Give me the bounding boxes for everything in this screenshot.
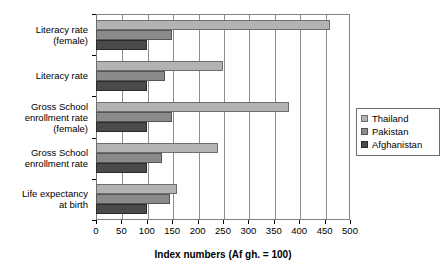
category-label: Literacy rate [0, 70, 88, 81]
bar-thailand [96, 20, 330, 30]
category-label: Life expectancyat birth [0, 188, 88, 210]
category-label-line: enrollment rate [0, 158, 88, 169]
bar-pakistan [96, 194, 170, 204]
bar-afghanistan [96, 122, 147, 132]
category-label-line: (female) [0, 123, 88, 134]
x-axis-tick [172, 220, 173, 224]
category-label-line: Life expectancy [0, 188, 88, 199]
legend: Thailand Pakistan Afghanistan [356, 108, 440, 156]
x-axis-tick [325, 220, 326, 224]
category-label: Gross Schoolenrollment rate [0, 147, 88, 169]
category-label-line: Gross School [0, 101, 88, 112]
bar-group [96, 102, 350, 132]
bar-thailand [96, 102, 289, 112]
category-label: Literacy rate(female) [0, 24, 88, 46]
category-label-line: enrollment rate [0, 112, 88, 123]
category-label-line: Literacy rate [0, 24, 88, 35]
category-label-line: Gross School [0, 147, 88, 158]
bar-group [96, 143, 350, 173]
legend-swatch-icon [361, 141, 368, 148]
x-axis-tick [198, 220, 199, 224]
bar-thailand [96, 143, 218, 153]
x-axis-tick [350, 220, 351, 224]
x-axis-tick [274, 220, 275, 224]
bar-pakistan [96, 71, 165, 81]
y-axis-tick [92, 96, 96, 97]
x-axis-title: Index numbers (Af gh. = 100) [96, 249, 350, 260]
legend-item-thailand: Thailand [361, 112, 435, 125]
bar-group [96, 184, 350, 214]
category-label-line: (female) [0, 35, 88, 46]
bar-afghanistan [96, 81, 147, 91]
bar-afghanistan [96, 40, 147, 50]
legend-swatch-icon [361, 128, 368, 135]
y-axis-tick [92, 179, 96, 180]
bars-layer [96, 14, 350, 220]
bar-group [96, 20, 350, 50]
bar-pakistan [96, 112, 172, 122]
legend-label: Afghanistan [372, 138, 422, 151]
bar-afghanistan [96, 163, 147, 173]
bar-group [96, 61, 350, 91]
bar-chart: Literacy rate(female)Literacy rateGross … [0, 0, 446, 271]
bar-thailand [96, 61, 223, 71]
category-label-line: Literacy rate [0, 70, 88, 81]
bar-thailand [96, 184, 177, 194]
category-labels: Literacy rate(female)Literacy rateGross … [0, 14, 92, 220]
bar-pakistan [96, 153, 162, 163]
category-label: Gross Schoolenrollment rate(female) [0, 101, 88, 134]
x-axis-tick [96, 220, 97, 224]
y-axis-tick [92, 14, 96, 15]
legend-swatch-icon [361, 115, 368, 122]
legend-item-pakistan: Pakistan [361, 125, 435, 138]
bar-afghanistan [96, 204, 147, 214]
y-axis-tick [92, 55, 96, 56]
x-axis-tick [223, 220, 224, 224]
legend-label: Thailand [372, 112, 408, 125]
x-axis-tick [299, 220, 300, 224]
legend-item-afghanistan: Afghanistan [361, 138, 435, 151]
bar-pakistan [96, 30, 172, 40]
x-axis-tick [147, 220, 148, 224]
x-axis-tick [121, 220, 122, 224]
x-axis-tick-label: 500 [333, 225, 367, 236]
category-label-line: at birth [0, 199, 88, 210]
y-axis-tick [92, 138, 96, 139]
legend-label: Pakistan [372, 125, 408, 138]
x-axis-tick [248, 220, 249, 224]
